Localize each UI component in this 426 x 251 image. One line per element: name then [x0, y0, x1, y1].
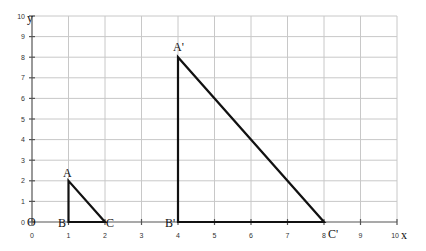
- point-a-label: A: [63, 166, 72, 180]
- x-tick-label: 6: [249, 232, 253, 239]
- point-a-prime-label: A': [173, 40, 184, 54]
- x-tick-label: 8: [322, 232, 326, 239]
- x-axis-label: x: [401, 228, 407, 242]
- y-tick-label: 7: [21, 74, 25, 81]
- x-tick-label: 10: [391, 232, 399, 239]
- point-c-label: C: [106, 216, 114, 230]
- y-tick-label: 6: [21, 95, 25, 102]
- y-axis-label: y: [27, 11, 33, 25]
- y-tick-label: 3: [21, 157, 25, 164]
- ticks: [29, 16, 397, 225]
- y-tick-label: 1: [21, 198, 25, 205]
- x-tick-label: 9: [359, 232, 363, 239]
- y-tick-label: 2: [21, 177, 25, 184]
- coordinate-plane: 012345678910012345678910 y x O A B C A' …: [0, 0, 426, 251]
- point-c-prime-label: C': [328, 227, 338, 241]
- y-tick-label: 9: [21, 33, 25, 40]
- point-b-label: B: [58, 216, 66, 230]
- y-tick-label: 10: [17, 13, 25, 20]
- x-tick-label: 4: [176, 232, 180, 239]
- grid: [32, 16, 397, 222]
- x-tick-label: 5: [213, 232, 217, 239]
- x-tick-label: 1: [67, 232, 71, 239]
- x-tick-label: 3: [140, 232, 144, 239]
- y-tick-label: 0: [21, 219, 25, 226]
- y-tick-label: 5: [21, 116, 25, 123]
- x-tick-label: 7: [286, 232, 290, 239]
- point-b-prime-label: B': [165, 216, 175, 230]
- y-tick-label: 4: [21, 136, 25, 143]
- y-tick-label: 8: [21, 54, 25, 61]
- tick-labels: 012345678910012345678910: [17, 13, 399, 240]
- x-tick-label: 0: [30, 232, 34, 239]
- origin-label: O: [27, 215, 36, 229]
- x-tick-label: 2: [103, 232, 107, 239]
